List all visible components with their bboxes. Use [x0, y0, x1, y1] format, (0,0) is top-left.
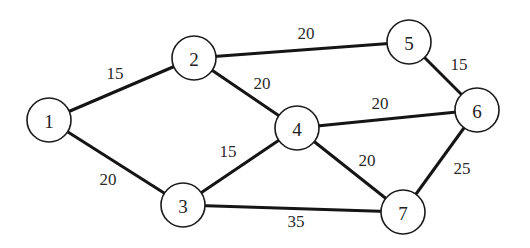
node-4: 4: [275, 106, 319, 150]
edge-2-5: [194, 42, 409, 58]
node-2: 2: [172, 36, 216, 80]
node-5: 5: [387, 20, 431, 64]
edge-4-6: [297, 110, 477, 128]
edge-weight-4-7: 20: [359, 151, 376, 170]
node-1: 1: [27, 98, 71, 142]
weighted-graph: 15202020153520201525 1234567: [0, 0, 530, 248]
edge-weight-5-6: 15: [451, 55, 468, 74]
edge-weight-3-4: 15: [220, 142, 237, 161]
edge-weight-2-5: 20: [298, 24, 315, 43]
node-7: 7: [381, 190, 425, 234]
node-label: 5: [404, 33, 414, 54]
edge-weight-2-4: 20: [254, 74, 271, 93]
node-label: 2: [189, 49, 199, 70]
node-3: 3: [161, 183, 205, 227]
node-label: 7: [398, 203, 408, 224]
edge-weight-6-7: 25: [454, 159, 471, 178]
node-6: 6: [455, 88, 499, 132]
node-label: 1: [44, 111, 54, 132]
edge-1-3: [49, 120, 183, 205]
node-label: 4: [292, 119, 302, 140]
node-label: 6: [472, 101, 482, 122]
edge-weight-3-7: 35: [288, 212, 305, 231]
edge-weight-1-2: 15: [107, 64, 124, 83]
edge-weight-4-6: 20: [372, 94, 389, 113]
node-label: 3: [178, 196, 188, 217]
edge-weight-1-3: 20: [100, 170, 117, 189]
